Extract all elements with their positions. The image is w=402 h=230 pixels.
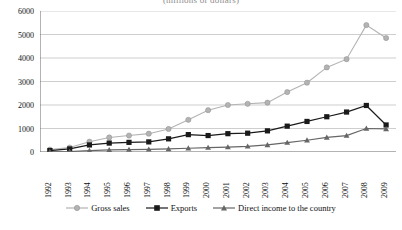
x-axis-labels: 1992199319941995199619971998199920002001… (40, 154, 396, 198)
x-axis-tick-label: 1995 (103, 182, 112, 198)
x-axis-tick-label: 2007 (341, 182, 350, 198)
y-axis-tick-label: 1000 (0, 124, 34, 133)
x-axis-tick-label: 2006 (321, 182, 330, 198)
x-axis-tick-label: 2008 (360, 182, 369, 198)
y-axis-tick-label: 3000 (0, 77, 34, 86)
legend-item-label: Gross sales (91, 204, 129, 213)
series-direct-income-to-the-country (47, 126, 389, 152)
y-axis-tick-label: 5000 (0, 30, 34, 39)
x-axis-tick-label: 2004 (281, 182, 290, 198)
series-gross-sales (47, 23, 388, 153)
legend-item-gross-sales[interactable]: Gross sales (66, 203, 129, 213)
legend-marker-triangle-icon (213, 203, 235, 213)
plot-area (40, 11, 396, 152)
legend-marker-circle-icon (66, 203, 88, 213)
y-axis-labels: 0100020003000400050006000 (0, 11, 36, 152)
y-axis-tick-label: 4000 (0, 54, 34, 63)
x-axis-tick-label: 2005 (301, 182, 310, 198)
x-axis-tick-label: 1994 (83, 182, 92, 198)
x-axis-tick-label: 2002 (242, 182, 251, 198)
x-axis-tick-label: 1997 (143, 182, 152, 198)
legend-item-label: Exports (171, 204, 197, 213)
x-axis-tick-label: 1998 (163, 182, 172, 198)
legend-item-exports[interactable]: Exports (146, 203, 197, 213)
y-axis-tick-label: 6000 (0, 7, 34, 16)
y-axis-tick-label: 0 (0, 148, 34, 157)
x-axis-tick-label: 1992 (44, 182, 53, 198)
x-axis-tick-label: 1999 (182, 182, 191, 198)
x-axis-tick-label: 1993 (64, 182, 73, 198)
x-axis-tick-label: 2000 (202, 182, 211, 198)
legend-marker-square-icon (146, 203, 168, 213)
chart-legend: Gross salesExportsDirect income to the c… (0, 203, 402, 213)
y-axis-tick-label: 2000 (0, 101, 34, 110)
x-axis-tick-label: 2001 (222, 182, 231, 198)
chart-title: (millions of dollars) (0, 0, 402, 5)
legend-item-direct-income-to-the-country[interactable]: Direct income to the country (213, 203, 336, 213)
legend-item-label: Direct income to the country (238, 204, 336, 213)
x-axis-tick-label: 1996 (123, 182, 132, 198)
series-exports (47, 103, 388, 152)
x-axis-tick-label: 2009 (380, 182, 389, 198)
chart-container: (millions of dollars) 010002000300040005… (0, 0, 402, 230)
plot-svg (40, 11, 396, 152)
x-axis-tick-label: 2003 (261, 182, 270, 198)
